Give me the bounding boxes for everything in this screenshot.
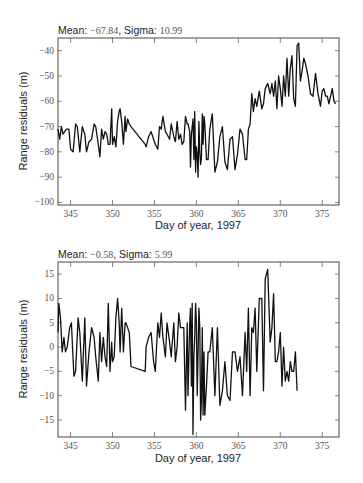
bottom-sigma-label: Sigma: [119, 248, 155, 260]
top-y-tick-label: −60 [39, 96, 54, 106]
bottom-y-tick-label: 15 [45, 269, 55, 279]
bottom-x-tick-label: 370 [273, 441, 288, 451]
top-sigma-label: Sigma: [124, 24, 160, 36]
top-mean-value: −67.84 [90, 25, 118, 36]
top-y-tick-label: −70 [39, 122, 54, 132]
top-y-ticks: −40−50−60−70−80−90−100 [34, 46, 339, 208]
top-y-tick-label: −100 [34, 197, 54, 207]
top-y-tick-label: −40 [39, 46, 54, 56]
top-x-tick-label: 365 [231, 209, 246, 219]
bottom-x-tick-label: 365 [231, 441, 246, 451]
top-x-tick-label: 360 [189, 209, 204, 219]
top-y-tick-label: −80 [39, 147, 54, 157]
top-x-tick-label: 370 [273, 209, 288, 219]
top-x-tick-label: 350 [105, 209, 120, 219]
bottom-y-tick-label: −10 [39, 391, 54, 401]
top-residuals-line [58, 43, 336, 177]
bottom-mean-value: −0.58 [90, 249, 113, 260]
bottom-y-tick-label: 10 [45, 293, 55, 303]
top-sigma-value: 10.99 [160, 25, 183, 36]
top-y-axis-label: Range residuals (m) [17, 71, 29, 170]
bottom-y-tick-label: −15 [39, 415, 54, 425]
bottom-mean-label: Mean: [58, 248, 90, 260]
bottom-chart: Mean: −0.58, Sigma: 5.99 151050−5−10−15 … [17, 248, 339, 464]
bottom-y-axis-label: Range residuals (m) [17, 299, 29, 398]
top-x-axis-label: Day of year, 1997 [155, 219, 241, 231]
bottom-x-tick-label: 350 [105, 441, 120, 451]
residuals-figure: Mean: −67.84, Sigma: 10.99 −40−50−60−70−… [0, 0, 363, 483]
bottom-y-tick-label: 5 [49, 318, 54, 328]
top-y-tick-label: −90 [39, 172, 54, 182]
bottom-sigma-value: 5.99 [155, 249, 173, 260]
bottom-residuals-line [58, 269, 297, 434]
bottom-chart-title: Mean: −0.58, Sigma: 5.99 [58, 248, 172, 260]
top-mean-label: Mean: [58, 24, 90, 36]
bottom-x-tick-label: 375 [315, 441, 330, 451]
top-chart-title: Mean: −67.84, Sigma: 10.99 [58, 24, 182, 36]
bottom-y-tick-label: −5 [44, 366, 54, 376]
bottom-x-axis-label: Day of year, 1997 [155, 452, 241, 464]
top-x-ticks: 345350355360365370375 [63, 38, 329, 219]
top-chart: Mean: −67.84, Sigma: 10.99 −40−50−60−70−… [17, 24, 339, 231]
top-y-tick-label: −50 [39, 71, 54, 81]
top-x-tick-label: 355 [147, 209, 162, 219]
top-x-tick-label: 345 [63, 209, 78, 219]
bottom-y-tick-label: 0 [49, 342, 54, 352]
bottom-x-tick-label: 355 [147, 441, 162, 451]
bottom-x-tick-label: 360 [189, 441, 204, 451]
bottom-x-tick-label: 345 [63, 441, 78, 451]
top-x-tick-label: 375 [315, 209, 330, 219]
